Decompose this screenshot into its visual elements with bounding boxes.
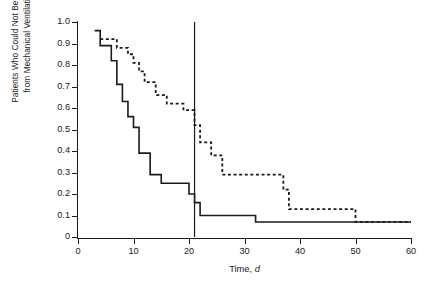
solid-curve [95, 31, 411, 222]
dashed-curve [100, 39, 411, 222]
kaplan-meier-figure: Patients Who Could Not Be Weaned from Me… [0, 0, 428, 289]
curves-layer [0, 0, 428, 289]
series-group [95, 31, 411, 222]
